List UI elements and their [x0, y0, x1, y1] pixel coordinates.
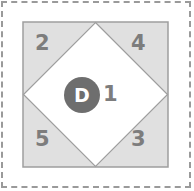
figure-container: 2 4 5 3 1 D [0, 0, 194, 191]
node-d-circle: D [64, 77, 100, 113]
node-d-label: D [74, 86, 90, 105]
region-label-5: 5 [35, 129, 50, 150]
region-label-2: 2 [35, 33, 50, 54]
region-label-4: 4 [131, 33, 146, 54]
region-label-1: 1 [103, 84, 118, 105]
region-label-3: 3 [131, 129, 146, 150]
